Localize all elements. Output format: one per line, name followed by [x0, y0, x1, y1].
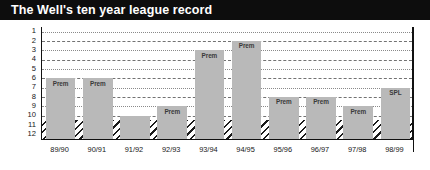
y-tick-label: 8 [14, 93, 36, 101]
plot-right-border [413, 27, 414, 152]
bar-series: PremPremPremPremPremPremPremPremSPL [42, 27, 412, 139]
y-tick-label: 4 [14, 55, 36, 63]
chart-screenshot: The Well's ten year league record PremPr… [0, 0, 430, 170]
bar-90-91: Prem [83, 78, 113, 139]
bar-96-97: Prem [306, 97, 336, 139]
bar-92-93: Prem [157, 106, 187, 139]
title-banner: The Well's ten year league record [0, 0, 430, 20]
x-tick-label: 95/96 [264, 145, 301, 154]
bar-value-label: Prem [306, 98, 336, 106]
x-tick-label: 89/90 [41, 145, 78, 154]
bar-value-label: Prem [157, 108, 187, 116]
y-tick-label: 1 [14, 27, 36, 35]
bar-value-label: Prem [232, 42, 262, 50]
x-tick-label: 98/99 [376, 145, 413, 154]
bar-value-label: Prem [46, 80, 76, 88]
bar-value-label: Prem [269, 98, 299, 106]
x-tick-label: 91/92 [115, 145, 152, 154]
y-tick-label: 6 [14, 74, 36, 82]
x-tick-label: 94/95 [227, 145, 264, 154]
x-tick-label: 92/93 [153, 145, 190, 154]
y-tick-label: 2 [14, 37, 36, 45]
x-tick-label: 90/91 [78, 145, 115, 154]
bar-91-92 [120, 116, 150, 139]
bar-value-label: SPL [381, 89, 411, 97]
bar-89-90: Prem [46, 78, 76, 139]
x-tick-label: 96/97 [301, 145, 338, 154]
banner-accent-bar [0, 0, 6, 20]
bar-value-label: Prem [343, 108, 373, 116]
x-tick-label: 93/94 [190, 145, 227, 154]
y-tick-label: 10 [14, 111, 36, 119]
bar-95-96: Prem [269, 97, 299, 139]
y-tick-label: 3 [14, 46, 36, 54]
bar-93-94: Prem [195, 50, 225, 139]
y-tick-label: 9 [14, 102, 36, 110]
y-tick-label: 7 [14, 83, 36, 91]
bar-98-99: SPL [381, 88, 411, 139]
x-axis-line [41, 139, 414, 140]
bar-94-95: Prem [232, 41, 262, 139]
page-title: The Well's ten year league record [11, 2, 212, 18]
y-tick-label: 11 [14, 121, 36, 129]
bar-97-98: Prem [343, 106, 373, 139]
x-tick-label: 97/98 [339, 145, 376, 154]
bar-value-label: Prem [195, 52, 225, 60]
y-tick-label: 5 [14, 65, 36, 73]
bar-value-label: Prem [83, 80, 113, 88]
y-tick-label: 12 [14, 130, 36, 138]
plot-area: PremPremPremPremPremPremPremPremSPL [41, 27, 413, 139]
